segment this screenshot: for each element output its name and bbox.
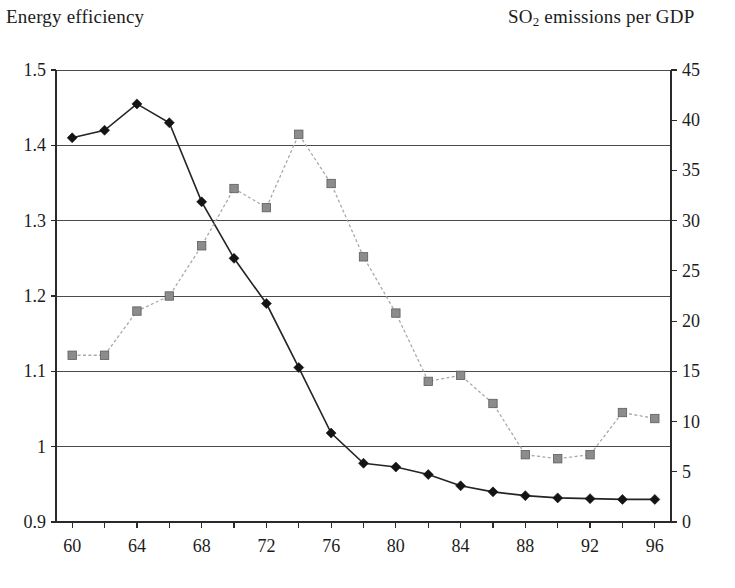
left-axis-tick-label: 1.4 xyxy=(24,135,47,155)
x-axis-tick-label: 84 xyxy=(452,536,470,556)
data-point-marker xyxy=(392,309,400,317)
data-point-marker xyxy=(520,491,530,501)
data-point-marker xyxy=(456,371,464,379)
right-axis-tick-label: 30 xyxy=(682,211,700,231)
data-series xyxy=(67,99,660,505)
right-axis-tick-label: 20 xyxy=(682,311,700,331)
data-point-marker xyxy=(521,451,529,459)
left-axis-tick-label: 1.5 xyxy=(24,60,47,80)
data-point-marker xyxy=(359,253,367,261)
data-point-marker xyxy=(67,133,77,143)
data-point-marker xyxy=(586,451,594,459)
data-point-marker xyxy=(650,494,660,504)
x-axis-tick-label: 92 xyxy=(581,536,599,556)
gridlines xyxy=(56,70,671,522)
data-point-marker xyxy=(423,470,433,480)
data-point-marker xyxy=(553,493,563,503)
right-axis-tick-label: 15 xyxy=(682,361,700,381)
data-point-marker xyxy=(165,292,173,300)
data-point-marker xyxy=(617,494,627,504)
data-point-marker xyxy=(262,203,270,211)
chart-container: Energy efficiency SO2 emissions per GDP … xyxy=(0,0,735,588)
series-line-1 xyxy=(72,104,655,500)
data-point-marker xyxy=(327,179,335,187)
data-point-marker xyxy=(164,118,174,128)
x-axis-tick-label: 88 xyxy=(516,536,534,556)
x-axis-tick-label: 96 xyxy=(646,536,664,556)
data-point-marker xyxy=(197,197,207,207)
right-axis-tick-label: 10 xyxy=(682,412,700,432)
data-point-marker xyxy=(424,377,432,385)
data-point-marker xyxy=(391,462,401,472)
data-point-marker xyxy=(488,487,498,497)
right-axis-tick-label: 5 xyxy=(682,462,691,482)
data-point-marker xyxy=(554,455,562,463)
data-point-marker xyxy=(229,253,239,263)
data-point-marker xyxy=(261,299,271,309)
x-axis-tick-label: 80 xyxy=(387,536,405,556)
x-axis-tick-label: 76 xyxy=(322,536,340,556)
left-axis-tick-label: 1.2 xyxy=(24,286,47,306)
tick-labels: 0.911.11.21.31.41.5051015202530354045606… xyxy=(24,60,701,556)
left-axis-tick-label: 1.3 xyxy=(24,211,47,231)
data-point-marker xyxy=(456,481,466,491)
x-axis-tick-label: 68 xyxy=(193,536,211,556)
data-point-marker xyxy=(197,242,205,250)
data-point-marker xyxy=(230,184,238,192)
right-axis-tick-label: 45 xyxy=(682,60,700,80)
x-axis-tick-label: 60 xyxy=(63,536,81,556)
data-point-marker xyxy=(489,399,497,407)
data-point-marker xyxy=(133,307,141,315)
right-axis-tick-label: 25 xyxy=(682,261,700,281)
data-point-marker xyxy=(651,414,659,422)
x-axis-tick-label: 64 xyxy=(128,536,146,556)
data-point-marker xyxy=(295,130,303,138)
left-axis-tick-label: 0.9 xyxy=(24,512,47,532)
right-axis-tick-label: 40 xyxy=(682,110,700,130)
data-point-marker xyxy=(68,351,76,359)
data-point-marker xyxy=(585,494,595,504)
left-axis-tick-label: 1 xyxy=(37,437,46,457)
right-axis-tick-label: 35 xyxy=(682,160,700,180)
left-axis-tick-label: 1.1 xyxy=(24,361,47,381)
x-axis-tick-label: 72 xyxy=(257,536,275,556)
right-axis-tick-label: 0 xyxy=(682,512,691,532)
plot-area: 0.911.11.21.31.41.5051015202530354045606… xyxy=(0,0,735,588)
data-point-marker xyxy=(100,351,108,359)
data-point-marker xyxy=(618,408,626,416)
